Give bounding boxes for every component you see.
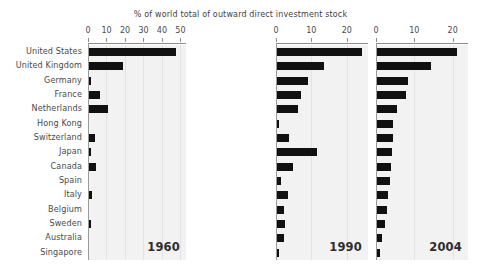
- bar-1990-germany: [277, 77, 308, 85]
- bar-2004-united-states: [377, 48, 457, 56]
- axis-tick-label-1960-0: 0: [85, 26, 90, 35]
- gridline-20: [347, 45, 348, 260]
- axis-tick-label-2004-0: 0: [373, 26, 378, 35]
- bar-2004-japan: [377, 148, 392, 156]
- bar-2004-australia: [377, 234, 382, 242]
- bar-2004-france: [377, 91, 406, 99]
- axis-tick-1990-0: [276, 38, 277, 42]
- axis-tick-1960-50: [180, 38, 181, 42]
- bar-1990-italy: [277, 191, 288, 199]
- axis-tick-label-1990-0: 0: [273, 26, 278, 35]
- axis-tick-1960-40: [162, 38, 163, 42]
- category-label-france: France: [54, 89, 82, 99]
- bar-2004-germany: [377, 77, 408, 85]
- category-label-column: United StatesUnited KingdomGermanyFrance…: [0, 45, 86, 260]
- category-label-italy: Italy: [64, 189, 82, 199]
- category-label-hong-kong: Hong Kong: [37, 118, 82, 128]
- bar-1990-singapore: [277, 249, 279, 257]
- axis-tick-1960-0: [88, 38, 89, 42]
- axis-tick-2004-0: [376, 38, 377, 42]
- category-label-canada: Canada: [51, 161, 82, 171]
- bar-2004-canada: [377, 163, 391, 171]
- bar-1990-spain: [277, 177, 281, 185]
- axis-tick-1990-20: [347, 38, 348, 42]
- bar-1960-switzerland: [89, 134, 95, 142]
- axis-line-1990: [276, 43, 368, 44]
- gridline-10: [106, 45, 107, 260]
- panel-year-label-2004: 2004: [429, 240, 462, 254]
- bar-1990-australia: [277, 234, 284, 242]
- gridline-40: [162, 45, 163, 260]
- bar-2004-spain: [377, 177, 390, 185]
- bar-1960-united-kingdom: [89, 62, 123, 70]
- axis-tick-label-1960-30: 30: [138, 26, 148, 35]
- bar-1960-netherlands: [89, 105, 108, 113]
- panel-year-label-1960: 1960: [147, 240, 180, 254]
- bar-1990-japan: [277, 148, 317, 156]
- category-label-australia: Australia: [45, 232, 82, 242]
- bar-1960-canada: [89, 163, 96, 171]
- axis-tick-label-1960-10: 10: [101, 26, 111, 35]
- category-label-japan: Japan: [59, 146, 82, 156]
- bar-2004-singapore: [377, 249, 380, 257]
- category-label-switzerland: Switzerland: [34, 132, 82, 142]
- gridline-30: [143, 45, 144, 260]
- panel-2004: 2004: [376, 45, 468, 260]
- bar-2004-hong-kong: [377, 120, 393, 128]
- axis-tick-2004-20: [453, 38, 454, 42]
- bar-1960-france: [89, 91, 100, 99]
- category-label-singapore: Singapore: [40, 247, 82, 257]
- bar-2004-belgium: [377, 206, 387, 214]
- bar-1990-france: [277, 91, 301, 99]
- axis-line-2004: [376, 43, 468, 44]
- category-label-spain: Spain: [59, 175, 82, 185]
- bar-1990-netherlands: [277, 105, 298, 113]
- gridline-20: [125, 45, 126, 260]
- axis-tick-label-1990-20: 20: [342, 26, 352, 35]
- panel-1990: 1990: [276, 45, 368, 260]
- bar-1960-italy: [89, 191, 92, 199]
- bar-1990-belgium: [277, 206, 284, 214]
- category-label-germany: Germany: [44, 75, 82, 85]
- axis-tick-label-2004-20: 20: [448, 26, 458, 35]
- chart-title: % of world total of outward direct inves…: [0, 10, 481, 19]
- bar-1960-united-states: [89, 48, 176, 56]
- bar-2004-netherlands: [377, 105, 397, 113]
- gridline-50: [180, 45, 181, 260]
- bar-1990-hong-kong: [277, 120, 279, 128]
- category-label-united-states: United States: [26, 46, 82, 56]
- category-label-sweden: Sweden: [49, 218, 82, 228]
- bar-1990-canada: [277, 163, 293, 171]
- axis-line-1960: [88, 43, 186, 44]
- chart-figure: % of world total of outward direct inves…: [0, 0, 481, 266]
- axis-tick-label-1960-40: 40: [157, 26, 167, 35]
- axis-tick-1990-10: [311, 38, 312, 42]
- axis-tick-label-1960-20: 20: [120, 26, 130, 35]
- gridline-20: [453, 45, 454, 260]
- bar-1960-germany: [89, 77, 91, 85]
- category-label-belgium: Belgium: [48, 204, 82, 214]
- bar-1960-japan: [89, 148, 91, 156]
- axis-tick-1960-30: [143, 38, 144, 42]
- axis-tick-label-1960-50: 50: [175, 26, 185, 35]
- axis-tick-label-1990-10: 10: [306, 26, 316, 35]
- bar-2004-sweden: [377, 220, 385, 228]
- bar-1990-united-states: [277, 48, 362, 56]
- gridline-10: [414, 45, 415, 260]
- category-label-united-kingdom: United Kingdom: [16, 60, 82, 70]
- axis-tick-1960-20: [125, 38, 126, 42]
- axis-tick-label-2004-10: 10: [409, 26, 419, 35]
- axis-tick-2004-10: [414, 38, 415, 42]
- bar-2004-switzerland: [377, 134, 393, 142]
- bar-1990-switzerland: [277, 134, 289, 142]
- axis-tick-1960-10: [106, 38, 107, 42]
- bar-2004-united-kingdom: [377, 62, 431, 70]
- bar-1990-sweden: [277, 220, 285, 228]
- bar-1990-united-kingdom: [277, 62, 324, 70]
- panel-1960: 1960: [88, 45, 186, 260]
- bar-2004-italy: [377, 191, 388, 199]
- panel-year-label-1990: 1990: [329, 240, 362, 254]
- category-label-netherlands: Netherlands: [32, 103, 82, 113]
- bar-1960-sweden: [89, 220, 91, 228]
